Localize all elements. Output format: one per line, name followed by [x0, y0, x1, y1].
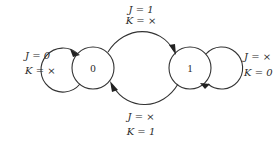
state-0-label: 0: [90, 62, 96, 74]
label-t00-k: K = ×: [24, 65, 56, 76]
state-diagram: 0 1 J = 0 K = × J = 1 K = × J = × K = 1 …: [0, 0, 279, 146]
label-t11-j: J = ×: [242, 51, 271, 62]
label-t00-j: J = 0: [23, 50, 51, 61]
label-t01-k: K = ×: [125, 15, 157, 26]
label-t11-k: K = 0: [243, 67, 273, 78]
arrowhead-1-to-0: [110, 81, 118, 92]
label-t01-j: J = 1: [126, 4, 153, 15]
transition-1-to-0: [113, 84, 178, 105]
state-1-label: 1: [187, 62, 193, 74]
label-t10-k: K = 1: [126, 126, 156, 137]
transition-0-to-1: [108, 32, 174, 52]
arrowhead-0-to-1: [169, 44, 176, 55]
label-t10-j: J = ×: [125, 111, 154, 122]
